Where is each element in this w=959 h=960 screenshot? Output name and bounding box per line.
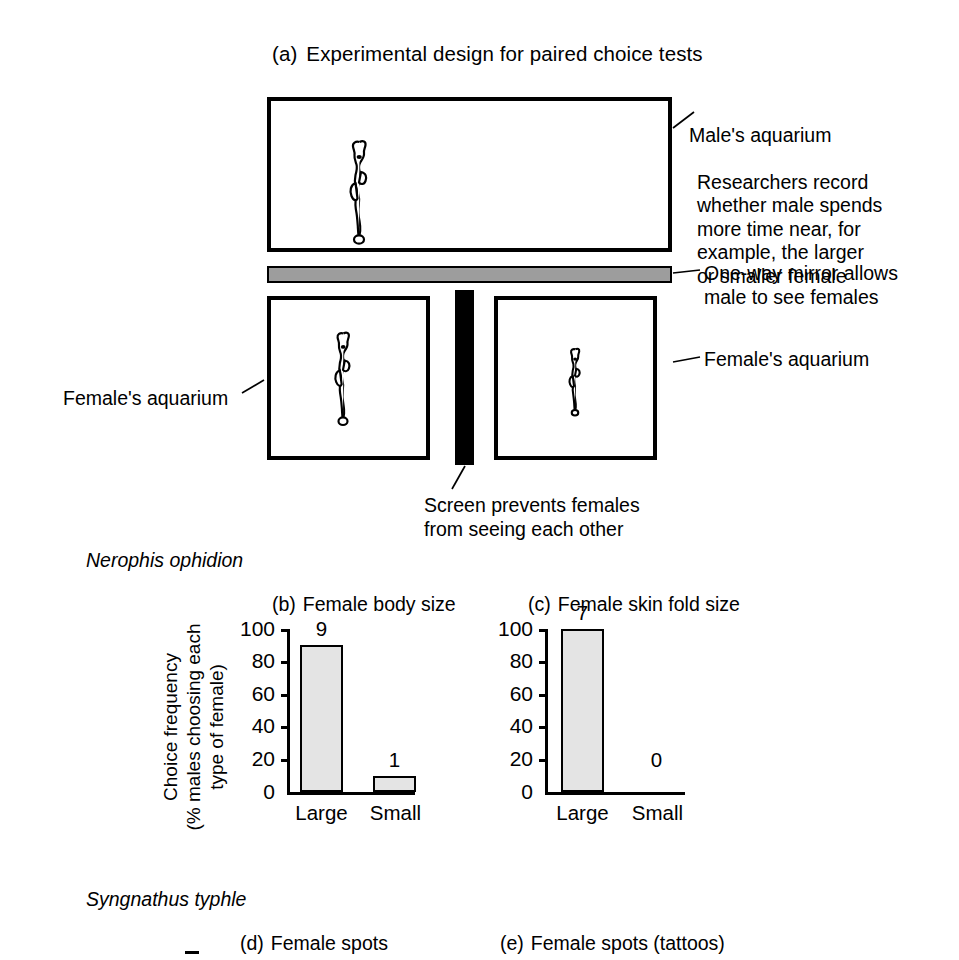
leader-female-right bbox=[673, 357, 700, 362]
annotation-screen: Screen prevents females from seeing each… bbox=[424, 494, 640, 541]
chart-b-value-large: 9 bbox=[300, 617, 343, 641]
chart-c-value-small: 0 bbox=[635, 748, 678, 772]
chart-b-value-small: 1 bbox=[373, 748, 416, 772]
chart-d-tick-top bbox=[185, 951, 199, 954]
annotation-male-aquarium-line1: Male's aquarium bbox=[689, 124, 882, 148]
chart-c-ticklabel-100: 100 bbox=[479, 617, 533, 641]
chart-b-panel-label: (b) bbox=[272, 593, 296, 615]
chart-c-tick-20 bbox=[539, 759, 546, 762]
chart-e-title: (e)Female spots (tattoos) bbox=[500, 932, 725, 955]
chart-c: 100 80 60 40 20 0 7 0 Large Small bbox=[483, 625, 683, 840]
chart-b-tick-40 bbox=[281, 726, 288, 729]
chart-b: 100 80 60 40 20 0 9 1 Large Small bbox=[225, 625, 415, 840]
chart-c-tick-60 bbox=[539, 694, 546, 697]
chart-b-ticklabel-20: 20 bbox=[221, 747, 275, 771]
leader-screen bbox=[452, 466, 465, 489]
chart-c-title: (c)Female skin fold size bbox=[528, 593, 740, 616]
leader-mirror bbox=[673, 270, 700, 273]
chart-b-ticklabel-0: 0 bbox=[221, 780, 275, 804]
chart-c-panel-label: (c) bbox=[528, 593, 551, 615]
chart-d-panel-label: (d) bbox=[240, 932, 264, 954]
species-name-syngnathus: Syngnathus typhle bbox=[86, 888, 246, 911]
chart-b-tick-100 bbox=[281, 629, 288, 632]
chart-c-ticklabel-80: 80 bbox=[479, 649, 533, 673]
chart-b-title: (b)Female body size bbox=[272, 593, 456, 616]
species-name-nerophis: Nerophis ophidion bbox=[86, 549, 243, 572]
chart-b-ticklabel-60: 60 bbox=[221, 682, 275, 706]
chart-b-bar-small bbox=[373, 776, 416, 792]
chart-e-title-text: Female spots (tattoos) bbox=[531, 932, 725, 954]
annotation-female-left-aquarium: Female's aquarium bbox=[63, 387, 228, 411]
chart-c-bar-large bbox=[561, 629, 604, 792]
chart-b-y-axis bbox=[287, 629, 290, 795]
y-axis-caption-line2: (% males choosing each bbox=[182, 618, 205, 836]
y-axis-caption: Choice frequency (% males choosing each … bbox=[165, 618, 221, 836]
chart-b-ticklabel-100: 100 bbox=[221, 617, 275, 641]
chart-b-ticklabel-80: 80 bbox=[221, 649, 275, 673]
chart-c-tick-80 bbox=[539, 661, 546, 664]
chart-c-tick-40 bbox=[539, 726, 546, 729]
chart-b-tick-20 bbox=[281, 759, 288, 762]
leader-female-left bbox=[242, 380, 264, 393]
chart-c-tick-100 bbox=[539, 629, 546, 632]
chart-b-category-small: Small bbox=[359, 801, 432, 825]
annotation-one-way-mirror: One-way mirror allows male to see female… bbox=[704, 262, 898, 309]
chart-c-category-large: Large bbox=[546, 801, 619, 825]
chart-c-y-axis bbox=[545, 629, 548, 795]
chart-d-title-text: Female spots bbox=[271, 932, 388, 954]
chart-b-bar-large bbox=[300, 645, 343, 792]
chart-b-tick-80 bbox=[281, 661, 288, 664]
chart-b-category-large: Large bbox=[285, 801, 358, 825]
chart-b-title-text: Female body size bbox=[303, 593, 456, 615]
y-axis-caption-line1: Choice frequency bbox=[159, 618, 182, 836]
chart-c-x-axis bbox=[545, 792, 685, 795]
chart-b-x-axis bbox=[287, 792, 415, 795]
chart-c-ticklabel-20: 20 bbox=[479, 747, 533, 771]
chart-c-category-small: Small bbox=[621, 801, 694, 825]
chart-b-ticklabel-40: 40 bbox=[221, 714, 275, 738]
chart-c-ticklabel-0: 0 bbox=[479, 780, 533, 804]
chart-c-value-large: 7 bbox=[561, 601, 604, 625]
chart-d-title: (d)Female spots bbox=[240, 932, 388, 955]
chart-c-ticklabel-60: 60 bbox=[479, 682, 533, 706]
chart-e-panel-label: (e) bbox=[500, 932, 524, 954]
chart-c-ticklabel-40: 40 bbox=[479, 714, 533, 738]
chart-b-tick-60 bbox=[281, 694, 288, 697]
annotation-female-right-aquarium: Female's aquarium bbox=[704, 348, 869, 372]
